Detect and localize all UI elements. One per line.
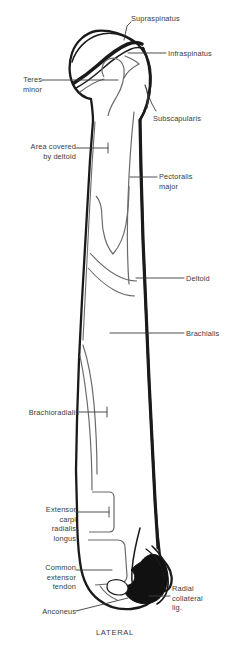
humerus-lateral-figure: Supraspinatus Infraspinatus Teres minor … bbox=[0, 0, 230, 646]
label-common-extensor-tendon: Common extensor tendon bbox=[15, 563, 76, 592]
anconeus-facet bbox=[107, 580, 128, 595]
label-brachioradialis: Brachioradialis bbox=[7, 408, 79, 418]
label-pectoralis-major: Pectoralis major bbox=[159, 172, 219, 191]
label-area-covered-by-deltoid: Area covered by deltoid bbox=[10, 142, 76, 161]
label-radial-collateral-lig: Radial collateral lig. bbox=[172, 584, 228, 613]
label-anconeus: Anconeus bbox=[6, 607, 76, 617]
label-extensor-carpi-radialis-longus: Extensor carpi radialis longus bbox=[18, 505, 76, 543]
figure-caption: LATERAL bbox=[0, 628, 230, 637]
label-brachialis: Brachialis bbox=[186, 329, 230, 339]
label-supraspinatus: Supraspinatus bbox=[131, 14, 226, 24]
label-infraspinatus: Infraspinatus bbox=[168, 49, 230, 59]
label-deltoid: Deltoid bbox=[186, 274, 230, 284]
humerus-illustration bbox=[0, 0, 230, 646]
label-subscapularis: Subscapularis bbox=[153, 114, 223, 124]
label-teres-minor: Teres minor bbox=[2, 75, 42, 94]
